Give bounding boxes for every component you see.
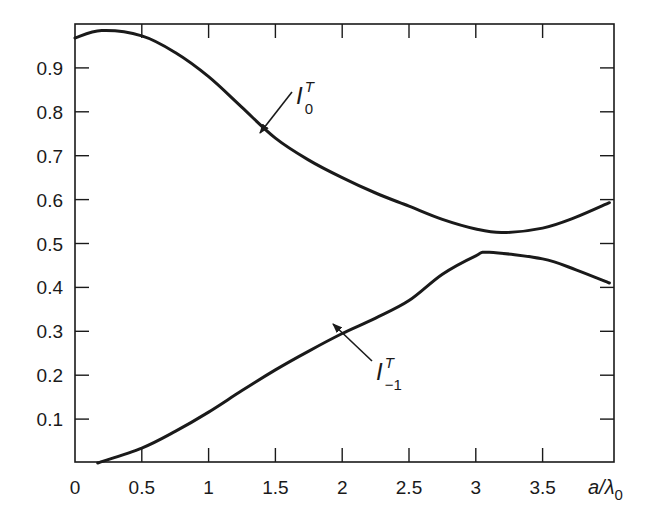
label-i0-arrow	[260, 92, 292, 133]
y-tick-label: 0.8	[37, 102, 63, 123]
label-i0: IT0	[296, 78, 316, 117]
x-tick-label: 0.5	[129, 477, 155, 498]
x-tick-label: 2	[337, 477, 348, 498]
y-tick-label: 0.7	[37, 146, 63, 167]
y-tick-label: 0.1	[37, 409, 63, 430]
x-tick-label: 2.5	[396, 477, 422, 498]
y-tick-label: 0.9	[37, 58, 63, 79]
x-tick-label: 1	[203, 477, 214, 498]
y-tick-label: 0.3	[37, 321, 63, 342]
x-tick-label: 3.5	[529, 477, 555, 498]
curve-i0-transmission	[75, 31, 609, 233]
chart: 00.511.522.533.50.10.20.30.40.50.60.70.8…	[0, 0, 656, 523]
curve-i-minus1-transmission	[98, 252, 610, 463]
x-tick-label: 0	[70, 477, 81, 498]
x-tick-label: 3	[471, 477, 482, 498]
plot-frame	[75, 24, 614, 462]
y-tick-label: 0.5	[37, 234, 63, 255]
x-axis-label: a/λ0	[588, 476, 623, 503]
y-tick-label: 0.6	[37, 190, 63, 211]
x-tick-label: 1.5	[262, 477, 288, 498]
y-tick-label: 0.4	[37, 277, 64, 298]
y-tick-label: 0.2	[37, 365, 63, 386]
label-i-minus1: IT−1	[376, 354, 402, 393]
